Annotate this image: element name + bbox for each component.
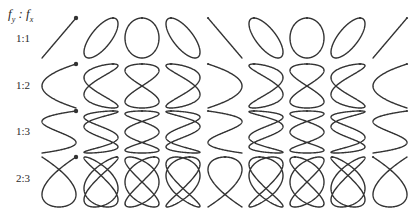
- lissajous-curve: [290, 64, 324, 108]
- direction-mark-icon: [112, 110, 114, 112]
- direction-mark-icon: [153, 156, 155, 158]
- lissajous-curve: [125, 111, 159, 153]
- lissajous-curve: [42, 64, 76, 108]
- start-dot-icon: [74, 16, 78, 20]
- lissajous-curve: [42, 18, 76, 58]
- lissajous-curve: [166, 18, 200, 58]
- direction-mark-icon: [406, 110, 408, 112]
- direction-mark-icon: [207, 110, 209, 112]
- direction-mark-icon: [359, 17, 361, 19]
- lissajous-curve: [331, 157, 365, 207]
- lissajous-curve: [125, 64, 159, 108]
- direction-mark-icon: [170, 63, 172, 65]
- lissajous-curve: [331, 18, 365, 58]
- lissajous-curve: [84, 18, 118, 58]
- direction-mark-icon: [253, 17, 255, 19]
- lissajous-figure-grid: [0, 0, 417, 212]
- lissajous-curve: [331, 64, 365, 108]
- lissajous-curve: [208, 111, 242, 153]
- direction-mark-icon: [359, 110, 361, 112]
- lissajous-curve: [208, 157, 242, 207]
- lissajous-curve: [249, 18, 283, 58]
- lissajous-curve: [290, 18, 324, 58]
- direction-mark-icon: [112, 17, 114, 19]
- lissajous-curve: [166, 64, 200, 108]
- direction-mark-icon: [306, 63, 308, 65]
- direction-mark-icon: [141, 17, 143, 19]
- lissajous-curve: [125, 157, 159, 207]
- direction-mark-icon: [188, 156, 190, 158]
- direction-mark-icon: [112, 63, 114, 65]
- lissajous-curve: [249, 64, 283, 108]
- start-dot-icon: [74, 155, 78, 159]
- direction-mark-icon: [306, 110, 308, 112]
- lissajous-curve: [249, 157, 283, 207]
- lissajous-curve: [84, 157, 118, 207]
- direction-mark-icon: [294, 156, 296, 158]
- direction-mark-icon: [141, 110, 143, 112]
- direction-mark-icon: [207, 63, 209, 65]
- lissajous-curve: [166, 157, 200, 207]
- start-dot-icon: [74, 62, 78, 66]
- lissajous-curve: [290, 111, 324, 153]
- lissajous-curve: [290, 157, 324, 207]
- direction-mark-icon: [406, 17, 408, 19]
- direction-mark-icon: [116, 156, 118, 158]
- lissajous-curve: [84, 64, 118, 108]
- lissajous-curve: [166, 111, 200, 153]
- lissajous-curve: [208, 64, 242, 108]
- direction-mark-icon: [331, 156, 333, 158]
- lissajous-curve: [373, 111, 407, 153]
- direction-mark-icon: [170, 110, 172, 112]
- direction-mark-icon: [258, 156, 260, 158]
- lissajous-curve: [373, 18, 407, 58]
- lissajous-curve: [373, 64, 407, 108]
- direction-mark-icon: [207, 17, 209, 19]
- direction-mark-icon: [406, 63, 408, 65]
- lissajous-curve: [249, 111, 283, 153]
- lissajous-curve: [84, 111, 118, 153]
- direction-mark-icon: [141, 63, 143, 65]
- direction-mark-icon: [253, 110, 255, 112]
- direction-mark-icon: [359, 63, 361, 65]
- direction-mark-icon: [306, 17, 308, 19]
- direction-mark-icon: [253, 63, 255, 65]
- lissajous-curve: [42, 111, 76, 153]
- direction-mark-icon: [372, 156, 374, 158]
- lissajous-curve: [42, 157, 76, 207]
- lissajous-curve: [125, 18, 159, 58]
- lissajous-curve: [208, 18, 242, 58]
- lissajous-curve: [331, 111, 365, 153]
- start-dot-icon: [74, 109, 78, 113]
- lissajous-curve: [373, 157, 407, 207]
- direction-mark-icon: [170, 17, 172, 19]
- direction-mark-icon: [224, 156, 226, 158]
